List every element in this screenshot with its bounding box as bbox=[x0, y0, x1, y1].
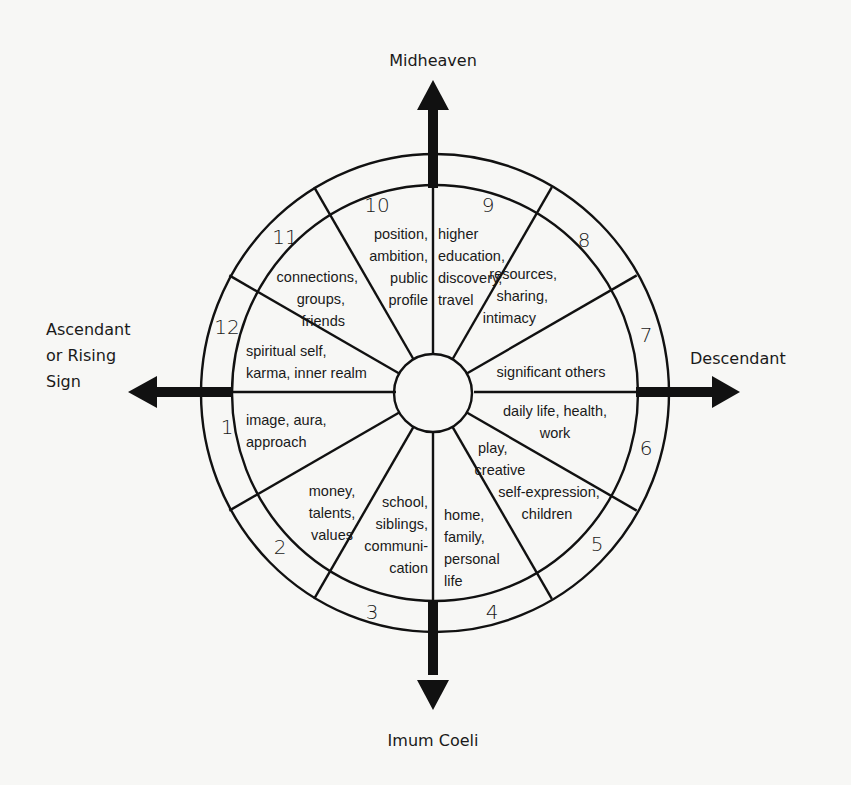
house-meaning-line: ambition, bbox=[369, 248, 428, 264]
axis-label-ascendant-2: or Rising bbox=[46, 346, 116, 365]
house-number-10: 10 bbox=[364, 193, 389, 217]
house-number-11: 11 bbox=[272, 225, 297, 249]
center-circle bbox=[394, 354, 472, 432]
house-meaning-line: groups, bbox=[297, 291, 345, 307]
house-meaning-line: friends bbox=[301, 313, 345, 329]
house-meaning-line: discovery, bbox=[438, 270, 502, 286]
house-meaning-12: spiritual self,karma, inner realm bbox=[246, 343, 367, 381]
house-meaning-line: education, bbox=[438, 248, 505, 264]
house-wheel-diagram: Midheaven Imum Coeli Descendant Ascendan… bbox=[0, 0, 851, 785]
house-meaning-line: children bbox=[522, 506, 573, 522]
axis-label-ascendant-3: Sign bbox=[46, 372, 81, 391]
house-number-5: 5 bbox=[591, 532, 604, 556]
house-meaning-line: work bbox=[539, 425, 571, 441]
house-number-12: 12 bbox=[214, 315, 239, 339]
house-meaning-line: sharing, bbox=[496, 288, 548, 304]
arrow-up-icon bbox=[417, 80, 449, 110]
arrow-left-icon bbox=[128, 376, 157, 408]
house-meaning-line: higher bbox=[438, 226, 478, 242]
house-meaning-line: talents, bbox=[309, 505, 356, 521]
house-meaning-3: school,siblings,communi-cation bbox=[364, 494, 428, 576]
house-meaning-line: approach bbox=[246, 434, 306, 450]
house-meaning-line: creative bbox=[475, 462, 526, 478]
house-meaning-line: profile bbox=[389, 292, 429, 308]
house-meaning-line: karma, inner realm bbox=[246, 365, 367, 381]
house-meaning-6: daily life, health,work bbox=[503, 403, 607, 441]
house-meaning-line: money, bbox=[309, 483, 355, 499]
house-meaning-4: home,family,personallife bbox=[444, 507, 500, 589]
house-meaning-line: intimacy bbox=[483, 310, 537, 326]
house-meaning-line: communi- bbox=[364, 538, 428, 554]
house-meaning-1: image, aura,approach bbox=[246, 412, 327, 450]
house-meaning-line: spiritual self, bbox=[246, 343, 327, 359]
house-meaning-line: public bbox=[390, 270, 428, 286]
house-meaning-line: travel bbox=[438, 292, 473, 308]
house-meaning-7: significant others bbox=[497, 364, 606, 380]
house-meaning-line: position, bbox=[374, 226, 428, 242]
axis-label-descendant: Descendant bbox=[690, 349, 786, 368]
house-meaning-line: home, bbox=[444, 507, 484, 523]
house-meaning-line: school, bbox=[382, 494, 428, 510]
house-meaning-2: money,talents,values bbox=[309, 483, 356, 543]
axis-label-midheaven: Midheaven bbox=[389, 51, 477, 70]
house-meaning-line: family, bbox=[444, 529, 485, 545]
house-meaning-line: cation bbox=[389, 560, 428, 576]
house-number-3: 3 bbox=[366, 600, 379, 624]
house-number-7: 7 bbox=[640, 323, 653, 347]
house-meaning-line: image, aura, bbox=[246, 412, 327, 428]
house-meaning-line: play, bbox=[478, 440, 508, 456]
axis-arrows bbox=[128, 80, 740, 710]
house-number-6: 6 bbox=[640, 436, 653, 460]
house-meaning-line: daily life, health, bbox=[503, 403, 607, 419]
house-meaning-line: values bbox=[311, 527, 353, 543]
house-meaning-line: personal bbox=[444, 551, 500, 567]
axis-label-ascendant: Ascendant bbox=[46, 320, 130, 339]
house-meaning-line: self-expression, bbox=[498, 484, 600, 500]
house-number-4: 4 bbox=[486, 600, 499, 624]
house-meaning-line: siblings, bbox=[376, 516, 428, 532]
house-number-8: 8 bbox=[578, 228, 591, 252]
house-number-1: 1 bbox=[221, 415, 234, 439]
arrow-right-icon bbox=[712, 376, 740, 408]
house-meaning-line: life bbox=[444, 573, 463, 589]
house-number-2: 2 bbox=[274, 535, 287, 559]
house-meaning-line: significant others bbox=[497, 364, 606, 380]
arrow-down-icon bbox=[417, 680, 449, 710]
house-number-9: 9 bbox=[482, 193, 495, 217]
house-meaning-line: connections, bbox=[277, 269, 358, 285]
axis-label-imum-coeli: Imum Coeli bbox=[388, 731, 479, 750]
house-meaning-11: connections,groups,friends bbox=[277, 269, 358, 329]
